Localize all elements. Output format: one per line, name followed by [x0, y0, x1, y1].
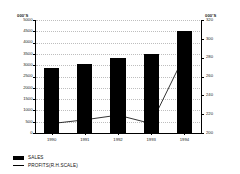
left-tick-label-2000: 2000	[23, 86, 32, 90]
legend-label-sales: SALES	[28, 155, 44, 160]
legend-label-profits: PROFITS(R.H.SCALE)	[28, 163, 78, 168]
left-tick-label-4500: 4500	[23, 29, 32, 33]
bar-sales-1994	[177, 31, 192, 133]
left-tick-label-5000: 5000	[23, 18, 32, 22]
x-tick-mark-1990	[52, 133, 53, 135]
right-tick-label-200: 200	[206, 131, 213, 135]
right-tick-label-280: 280	[206, 55, 213, 59]
x-tick-label-1991: 1991	[73, 137, 97, 142]
right-tick-mark-280	[202, 58, 204, 59]
right-tick-mark-300	[202, 39, 204, 40]
left-tick-label-500: 500	[26, 120, 33, 124]
legend-item-sales: SALES	[13, 155, 78, 160]
x-tick-label-1992: 1992	[106, 137, 130, 142]
right-tick-mark-320	[202, 20, 204, 21]
x-tick-mark-1992	[118, 133, 119, 135]
sales-swatch-icon	[13, 156, 24, 160]
x-tick-mark-1991	[85, 133, 86, 135]
right-tick-mark-240	[202, 95, 204, 96]
left-tick-mark-0	[33, 133, 35, 134]
right-tick-label-300: 300	[206, 37, 213, 41]
left-tick-label-3500: 3500	[23, 52, 32, 56]
right-tick-mark-200	[202, 133, 204, 134]
bar-sales-1993	[144, 54, 159, 133]
left-tick-label-4000: 4000	[23, 40, 32, 44]
right-tick-label-320: 320	[206, 18, 213, 22]
right-tick-mark-220	[202, 114, 204, 115]
x-tick-label-1993: 1993	[139, 137, 163, 142]
right-tick-mark-260	[202, 77, 204, 78]
bar-sales-1990	[44, 68, 59, 133]
right-tick-label-220: 220	[206, 112, 213, 116]
left-tick-label-1000: 1000	[23, 108, 32, 112]
x-tick-mark-1994	[184, 133, 185, 135]
right-tick-label-240: 240	[206, 93, 213, 97]
bar-sales-1991	[77, 64, 92, 133]
x-tick-label-1990: 1990	[40, 137, 64, 142]
bar-sales-1992	[110, 58, 125, 133]
sales-profits-combo-chart: 000'S 000'S 5000450040003500300025002000…	[0, 0, 240, 174]
x-tick-mark-1993	[151, 133, 152, 135]
chart-legend: SALES PROFITS(R.H.SCALE)	[13, 155, 78, 168]
x-tick-label-1994: 1994	[172, 137, 196, 142]
right-tick-label-260: 260	[206, 74, 213, 78]
profits-swatch-icon	[13, 163, 24, 167]
plot-area	[35, 20, 201, 133]
left-tick-label-3000: 3000	[23, 63, 32, 67]
left-tick-label-2500: 2500	[23, 74, 32, 78]
left-tick-label-1500: 1500	[23, 97, 32, 101]
legend-item-profits: PROFITS(R.H.SCALE)	[13, 163, 78, 168]
left-tick-label-0: 0	[30, 131, 32, 135]
